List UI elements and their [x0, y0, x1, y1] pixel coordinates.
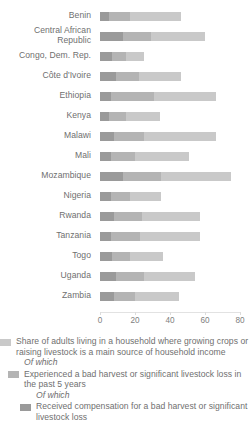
bar-segment-compensated[interactable]	[100, 192, 111, 202]
bar-segment-bad-harvest[interactable]	[123, 32, 151, 42]
bar-segment-compensated[interactable]	[100, 32, 123, 42]
stacked-bar[interactable]	[100, 12, 181, 22]
stacked-bar[interactable]	[100, 52, 144, 62]
chart-row: Kenya	[0, 106, 251, 126]
stacked-bar[interactable]	[100, 32, 205, 42]
bar-segment-compensated[interactable]	[100, 252, 112, 262]
bar-container	[96, 66, 251, 86]
bar-segment-compensated[interactable]	[100, 92, 111, 102]
bar-container	[96, 226, 251, 246]
stacked-bar[interactable]	[100, 132, 216, 142]
bar-segment-bad-harvest[interactable]	[123, 172, 162, 182]
chart-row: Mali	[0, 146, 251, 166]
bar-segment-bad-harvest[interactable]	[109, 112, 127, 122]
legend-label-compensated: Received compensation for a bad harvest …	[36, 401, 251, 422]
category-label: Ethiopia	[0, 91, 96, 101]
legend-label-bad-harvest: Experienced a bad harvest or significant…	[24, 369, 251, 390]
stacked-bar[interactable]	[100, 152, 189, 162]
chart-row: Rwanda	[0, 206, 251, 226]
bar-container	[96, 6, 251, 26]
bar-segment-share[interactable]	[154, 92, 215, 102]
bar-segment-compensated[interactable]	[100, 12, 109, 22]
bar-segment-share[interactable]	[161, 172, 231, 182]
chart-row: Uganda	[0, 266, 251, 286]
category-label: Mali	[0, 151, 96, 161]
bar-segment-bad-harvest[interactable]	[111, 232, 141, 242]
stacked-bar[interactable]	[100, 292, 179, 302]
category-label: Kenya	[0, 111, 96, 121]
stacked-bar[interactable]	[100, 212, 200, 222]
bar-segment-compensated[interactable]	[100, 272, 116, 282]
bar-segment-bad-harvest[interactable]	[112, 252, 130, 262]
category-label: Zambia	[0, 291, 96, 301]
bar-segment-compensated[interactable]	[100, 212, 114, 222]
bar-segment-bad-harvest[interactable]	[111, 192, 130, 202]
bar-segment-bad-harvest[interactable]	[116, 272, 144, 282]
legend-entry-compensated: Received compensation for a bad harvest …	[20, 401, 251, 422]
stacked-bar[interactable]	[100, 72, 181, 82]
legend-swatch-compensated-icon	[20, 404, 31, 411]
bar-segment-compensated[interactable]	[100, 172, 123, 182]
bar-segment-share[interactable]	[139, 72, 181, 82]
bar-segment-compensated[interactable]	[100, 72, 116, 82]
bar-segment-compensated[interactable]	[100, 292, 114, 302]
category-label: Uganda	[0, 271, 96, 281]
stacked-bar[interactable]	[100, 112, 160, 122]
bar-segment-share[interactable]	[135, 292, 179, 302]
bar-segment-share[interactable]	[151, 32, 205, 42]
bar-segment-compensated[interactable]	[100, 152, 111, 162]
axis-tick	[135, 312, 136, 315]
bar-container	[96, 26, 251, 46]
axis-tick-label: 60	[200, 316, 209, 325]
chart-row: Malawi	[0, 126, 251, 146]
bar-segment-share[interactable]	[130, 192, 162, 202]
legend-swatch-share-icon	[0, 339, 11, 346]
bar-segment-share[interactable]	[144, 272, 195, 282]
axis-tick-label: 20	[130, 316, 139, 325]
bar-segment-share[interactable]	[144, 132, 216, 142]
chart-row: Côte d'Ivoire	[0, 66, 251, 86]
bar-container	[96, 106, 251, 126]
bar-segment-compensated[interactable]	[100, 112, 109, 122]
bar-segment-bad-harvest[interactable]	[114, 212, 142, 222]
axis-tick-label: 0	[98, 316, 103, 325]
bar-container	[96, 86, 251, 106]
stacked-bar[interactable]	[100, 92, 216, 102]
chart-row: Togo	[0, 246, 251, 266]
bar-segment-compensated[interactable]	[100, 132, 114, 142]
of-which-label-1: Of which	[24, 357, 251, 368]
bar-segment-bad-harvest[interactable]	[111, 92, 155, 102]
chart-row: Congo, Dem. Rep.	[0, 46, 251, 66]
bar-segment-bad-harvest[interactable]	[111, 152, 136, 162]
bar-container	[96, 186, 251, 206]
bar-segment-share[interactable]	[130, 252, 163, 262]
bar-container	[96, 246, 251, 266]
bar-segment-share[interactable]	[142, 212, 200, 222]
bar-segment-share[interactable]	[135, 152, 189, 162]
bar-segment-bad-harvest[interactable]	[114, 292, 135, 302]
stacked-bar[interactable]	[100, 192, 161, 202]
bar-segment-bad-harvest[interactable]	[109, 12, 130, 22]
chart-row: Zambia	[0, 286, 251, 306]
bar-segment-share[interactable]	[130, 12, 181, 22]
bar-segment-compensated[interactable]	[100, 232, 111, 242]
axis-tick-label: 40	[165, 316, 174, 325]
bar-segment-bad-harvest[interactable]	[114, 132, 144, 142]
category-label: Nigeria	[0, 191, 96, 201]
axis-tick	[100, 312, 101, 315]
stacked-bar[interactable]	[100, 272, 195, 282]
bar-segment-share[interactable]	[126, 112, 159, 122]
bar-segment-share[interactable]	[140, 232, 200, 242]
bar-segment-compensated[interactable]	[100, 52, 112, 62]
bar-segment-bad-harvest[interactable]	[116, 72, 139, 82]
stacked-bar[interactable]	[100, 172, 231, 182]
bar-segment-bad-harvest[interactable]	[112, 52, 126, 62]
stacked-bar[interactable]	[100, 252, 163, 262]
category-label: Togo	[0, 251, 96, 261]
bar-container	[96, 206, 251, 226]
chart-row: Central African Republic	[0, 26, 251, 46]
stacked-bar[interactable]	[100, 232, 200, 242]
bar-segment-share[interactable]	[126, 52, 144, 62]
axis-tick-label: 80	[235, 316, 244, 325]
legend-swatch-bad-harvest-icon	[8, 371, 19, 378]
